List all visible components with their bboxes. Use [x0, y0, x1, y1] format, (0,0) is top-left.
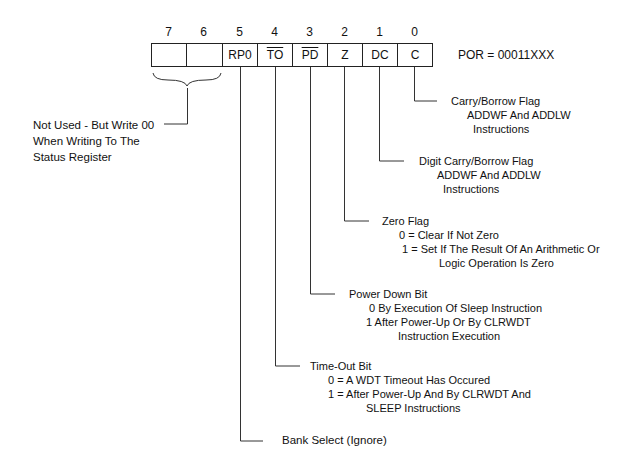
bank-select-description: Bank Select (Ignore) — [282, 433, 387, 447]
power-down-bit-description: Power Down Bit 0 By Execution Of Sleep I… — [349, 287, 542, 343]
carry-flag-description: Carry/Borrow Flag ADDWF And ADDLW Instru… — [451, 94, 571, 136]
time-out-bit-description: Time-Out Bit 0 = A WDT Timeout Has Occur… — [310, 359, 531, 415]
digit-carry-flag-description: Digit Carry/Borrow Flag ADDWF And ADDLW … — [419, 154, 541, 196]
unused-bits-description: Not Used - But Write 00 When Writing To … — [33, 117, 154, 165]
zero-flag-description: Zero Flag 0 = Clear If Not Zero 1 = Set … — [382, 214, 600, 270]
brace-icon — [153, 73, 221, 86]
